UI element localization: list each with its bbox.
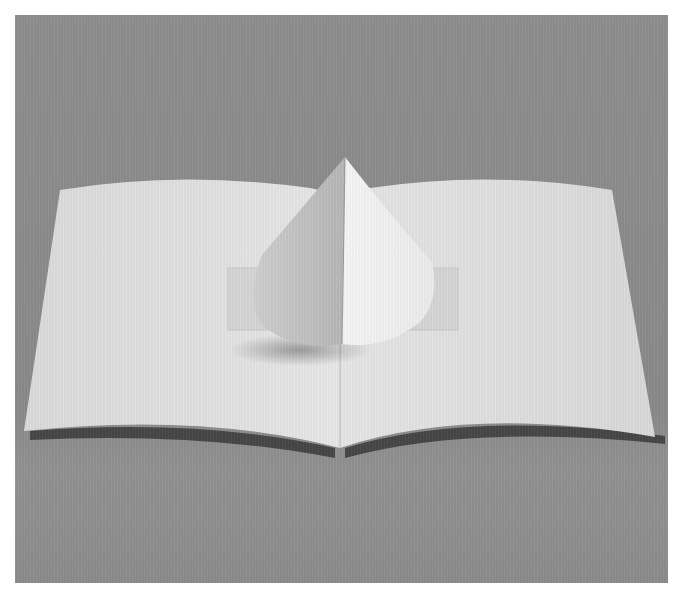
popup-card-illustration [15, 15, 668, 583]
photograph [15, 15, 668, 583]
